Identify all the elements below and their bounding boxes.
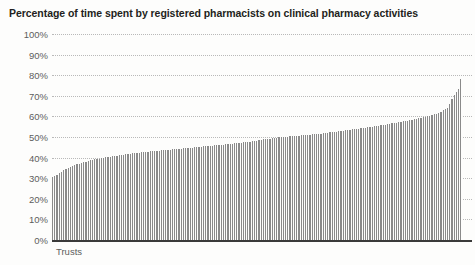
y-axis-tick-label: 50% <box>2 132 48 143</box>
y-axis-tick-label: 90% <box>2 49 48 60</box>
y-axis-tick-label: 30% <box>2 173 48 184</box>
y-axis-tick-label: 0% <box>2 235 48 246</box>
y-axis-tick-label: 40% <box>2 152 48 163</box>
x-axis-label: Trusts <box>56 246 82 257</box>
y-axis-tick-label: 70% <box>2 90 48 101</box>
y-axis-tick-label: 100% <box>2 29 48 40</box>
bar-series <box>52 34 462 240</box>
y-axis-tick-label: 10% <box>2 214 48 225</box>
bar <box>460 79 462 240</box>
y-axis-tick-label: 20% <box>2 193 48 204</box>
x-axis-baseline <box>52 240 472 242</box>
y-axis: 0%10%20%30%40%50%60%70%80%90%100% <box>0 0 48 265</box>
plot-area <box>52 34 462 240</box>
y-axis-tick-label: 80% <box>2 70 48 81</box>
chart-container: Percentage of time spent by registered p… <box>0 0 475 265</box>
y-axis-tick-label: 60% <box>2 111 48 122</box>
chart-title: Percentage of time spent by registered p… <box>9 7 469 19</box>
